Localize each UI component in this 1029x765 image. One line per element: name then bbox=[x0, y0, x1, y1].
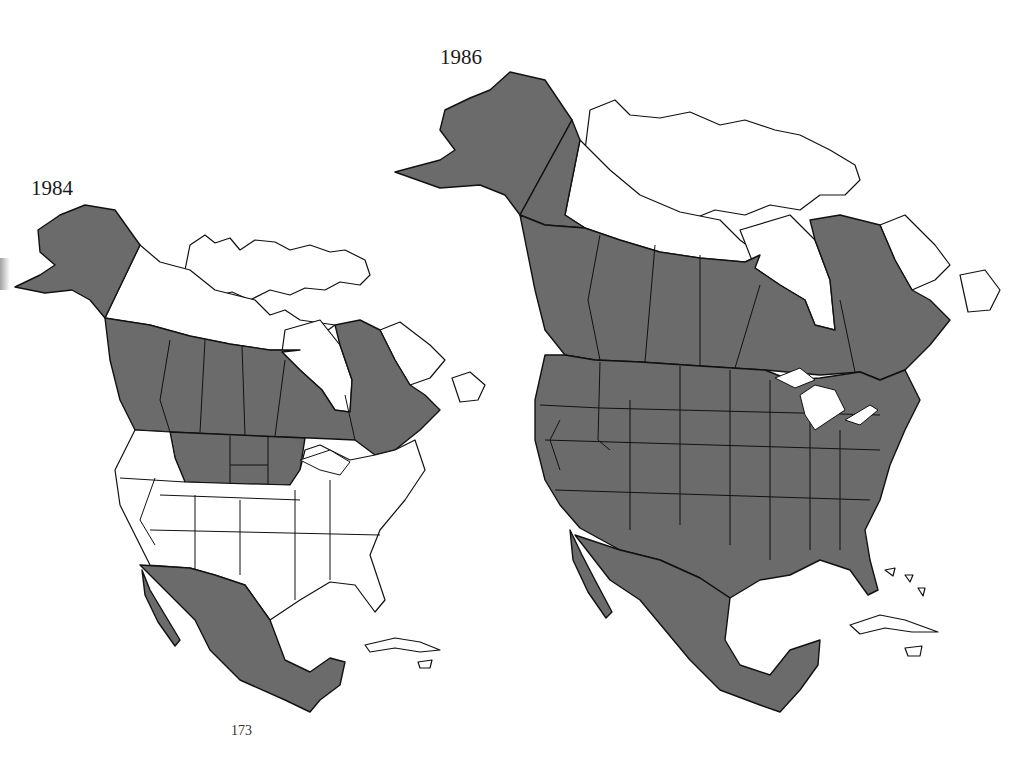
map-1986 bbox=[395, 72, 1000, 712]
maps-canvas bbox=[0, 0, 1029, 765]
map-1986-bahamas bbox=[885, 568, 925, 596]
map-1984-newfoundland bbox=[452, 372, 485, 402]
map-1984-island bbox=[418, 660, 432, 668]
map-1986-cuba bbox=[850, 615, 938, 634]
map-1984-cuba bbox=[365, 638, 440, 652]
map-1986-island bbox=[905, 646, 922, 656]
map-1984 bbox=[15, 205, 485, 712]
map-1986-continental-us bbox=[535, 355, 920, 598]
map-1984-shaded-us-states bbox=[170, 432, 305, 485]
map-1986-newfoundland bbox=[960, 270, 1000, 312]
